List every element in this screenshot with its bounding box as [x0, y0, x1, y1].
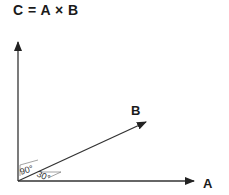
- right-angle-marker: 90°: [19, 160, 38, 177]
- vector-diagram: 90° 30° B A: [0, 0, 229, 195]
- vector-a-label: A: [203, 176, 213, 191]
- vector-b-label: B: [131, 103, 140, 118]
